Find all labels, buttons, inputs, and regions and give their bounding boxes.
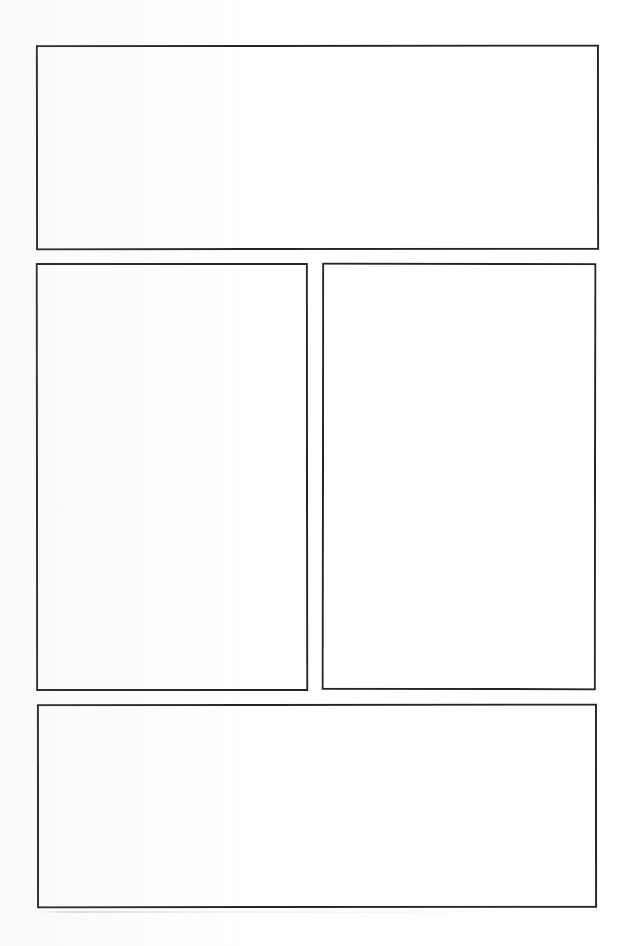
comic-page [0,0,628,946]
comic-panel-bottom-wide[interactable] [37,704,597,908]
comic-panel-top-wide[interactable] [36,45,599,251]
comic-panel-middle-right[interactable] [322,263,597,690]
panel-content-area[interactable] [324,265,595,688]
comic-panel-middle-left[interactable] [36,263,308,691]
panel-content-area[interactable] [39,706,595,906]
panel-content-area[interactable] [38,47,597,249]
scan-streak-artifact [38,911,578,913]
panel-content-area[interactable] [38,265,306,689]
